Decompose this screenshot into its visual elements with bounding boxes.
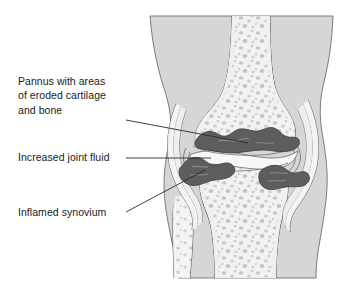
pannus-tibial-right-texture <box>270 173 288 174</box>
knee-joint-illustration <box>0 0 342 292</box>
label-increased-joint-fluid: Increased joint fluid <box>18 150 110 164</box>
label-pannus: Pannus with areas of eroded cartilage an… <box>18 74 106 117</box>
pannus-femoral-texture-2 <box>256 143 274 144</box>
label-inflamed-synovium: Inflamed synovium <box>18 205 106 219</box>
